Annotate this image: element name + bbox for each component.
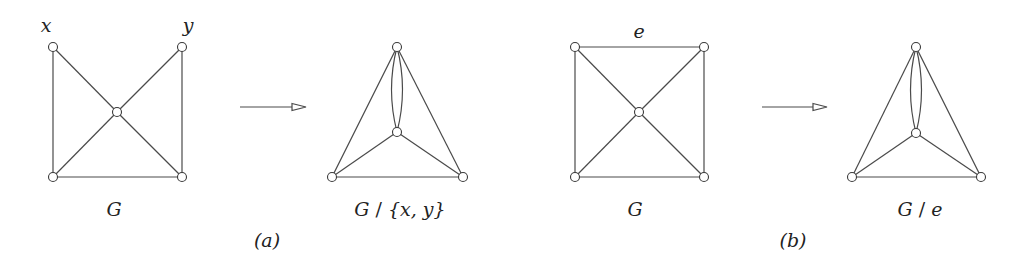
vertex-y — [178, 43, 187, 52]
vertex-bottom-left — [49, 173, 58, 182]
graph-name-contracted-b: G / e — [898, 198, 943, 220]
graph-name-g: G — [898, 198, 913, 220]
panel-b-original-graph: e G — [571, 20, 709, 220]
panel-a-original-graph: x y G — [41, 14, 194, 220]
vertex-center — [912, 129, 921, 138]
vertex-bottom-left — [328, 173, 337, 182]
edge-y-center — [117, 47, 182, 112]
vertex-bottom-left — [571, 173, 580, 182]
parallel-edge-right — [397, 47, 403, 132]
graph-name-g-a: G — [106, 198, 121, 220]
graph-name-g: G — [354, 198, 369, 220]
vertex-xy-merged — [393, 43, 402, 52]
vertex-bottom-right — [700, 173, 709, 182]
edge-label-e: e — [633, 20, 644, 42]
edge-center-br — [397, 132, 463, 177]
parallel-edge-left — [911, 47, 917, 133]
vertex-center — [393, 128, 402, 137]
caption-b: (b) — [780, 229, 807, 251]
caption-a: (a) — [254, 229, 280, 251]
edge-name-e: e — [931, 198, 942, 220]
edge-tr-center — [639, 47, 704, 112]
edge-xy-br — [397, 47, 463, 177]
vertex-label-x: x — [41, 14, 52, 36]
edge-center-bl — [852, 133, 916, 177]
edge-center-bl — [53, 112, 117, 177]
edge-center-br — [916, 133, 981, 177]
edge-center-bl — [575, 112, 639, 177]
arrow-b — [762, 104, 827, 111]
arrowhead-b-icon — [813, 104, 827, 111]
vertex-set: {x, y} — [388, 198, 446, 220]
edge-e-bl — [852, 47, 916, 177]
vertex-center — [635, 108, 644, 117]
vertex-bottom-right — [459, 173, 468, 182]
vertex-bottom-right — [178, 173, 187, 182]
parallel-edge-right — [916, 47, 922, 133]
vertex-top-left — [571, 43, 580, 52]
panel-a-contracted-graph: G / {x, y} — [328, 43, 468, 221]
edge-tl-center — [575, 47, 639, 112]
slash: / — [369, 198, 387, 220]
vertex-bottom-right — [977, 173, 986, 182]
vertex-center — [113, 108, 122, 117]
vertex-label-y: y — [182, 14, 194, 36]
parallel-edge-left — [392, 47, 398, 132]
arrow-a — [240, 104, 306, 111]
edge-x-center — [53, 47, 117, 112]
vertex-top-right — [700, 43, 709, 52]
edge-center-br — [639, 112, 704, 177]
edge-center-bl — [332, 132, 397, 177]
edge-xy-bl — [332, 47, 397, 177]
slash: / — [913, 198, 931, 220]
graph-name-contracted-a: G / {x, y} — [354, 198, 445, 220]
vertex-x — [49, 43, 58, 52]
graph-contraction-figure: x y G G / {x, y} (a) — [0, 0, 1028, 268]
graph-name-g-b: G — [627, 198, 642, 220]
vertex-bottom-left — [848, 173, 857, 182]
vertex-e-merged — [912, 43, 921, 52]
panel-b-contracted-graph: G / e — [848, 43, 986, 221]
edge-center-br — [117, 112, 182, 177]
edge-e-br — [916, 47, 981, 177]
arrowhead-a-icon — [292, 104, 306, 111]
